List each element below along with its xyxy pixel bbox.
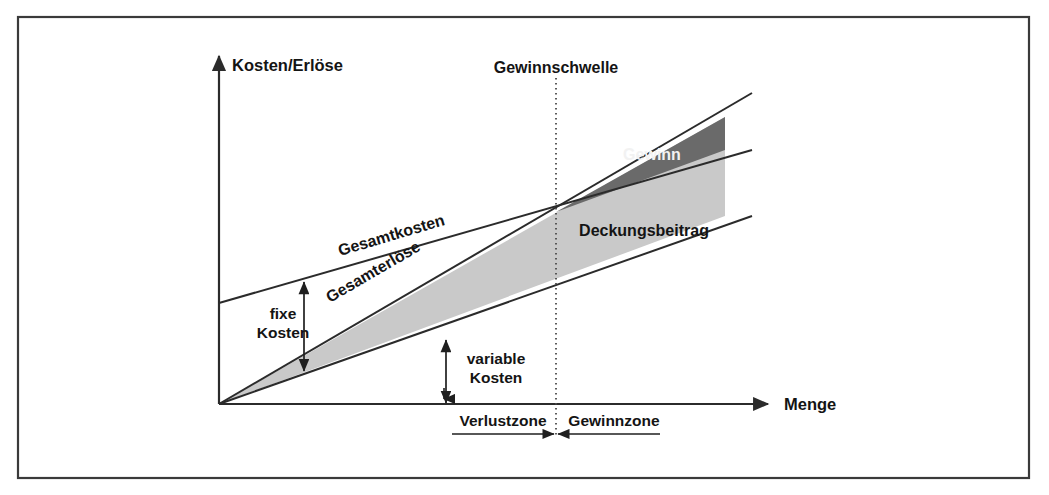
break-even-label: Gewinnschwelle	[494, 59, 619, 76]
profit-zone-label: Gewinnzone	[568, 412, 660, 429]
x-axis-label: Menge	[784, 395, 836, 413]
variable-costs-label-line2: Kosten	[470, 369, 523, 386]
loss-zone-label: Verlustzone	[460, 412, 547, 429]
y-axis-label: Kosten/Erlöse	[232, 56, 343, 74]
break-even-diagram: Kosten/Erlöse Menge Gewinnschwelle Gesam…	[0, 0, 1049, 495]
break-even-figure: Kosten/Erlöse Menge Gewinnschwelle Gesam…	[0, 0, 1049, 495]
variable-costs-label-line1: variable	[467, 350, 526, 367]
contribution-margin-label: Deckungsbeitrag	[579, 222, 709, 239]
fixed-costs-label-line1: fixe	[270, 305, 297, 322]
profit-area-label: Gewinn	[623, 146, 681, 163]
fixed-costs-label-line2: Kosten	[257, 324, 310, 341]
